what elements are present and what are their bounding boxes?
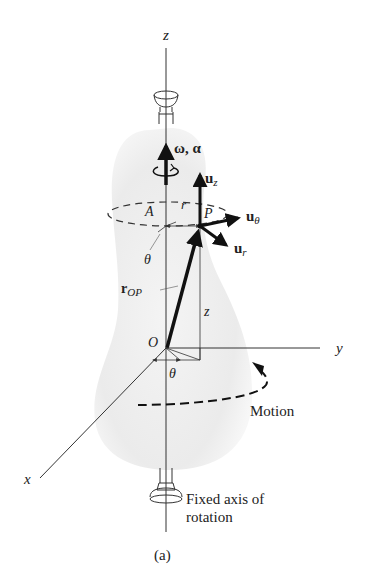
theta-lower-label: θ — [169, 366, 176, 381]
fixed-axis-label-line1: Fixed axis of — [186, 491, 264, 507]
height-z-label: z — [203, 304, 210, 319]
theta-upper-label: θ — [144, 252, 151, 267]
origin-label: O — [148, 335, 158, 350]
u-z-label: uz — [205, 170, 218, 188]
point-a-label: A — [144, 204, 154, 219]
x-axis-label: x — [23, 471, 31, 487]
rigid-body — [94, 128, 252, 470]
rotation-diagram: z ω, α uz uθ ur A P r θ rOP z — [0, 0, 379, 585]
figure-caption: (a) — [154, 547, 171, 564]
omega-alpha-label: ω, α — [174, 140, 201, 156]
motion-label: Motion — [250, 403, 295, 419]
u-r-label: ur — [234, 240, 247, 258]
motion-arrowhead-icon — [252, 362, 264, 376]
u-theta-label: uθ — [246, 208, 260, 226]
point-p-label: P — [203, 206, 213, 221]
fixed-axis-label-line2: rotation — [186, 509, 233, 525]
y-axis-label: y — [334, 340, 343, 356]
z-axis-label: z — [162, 27, 169, 43]
